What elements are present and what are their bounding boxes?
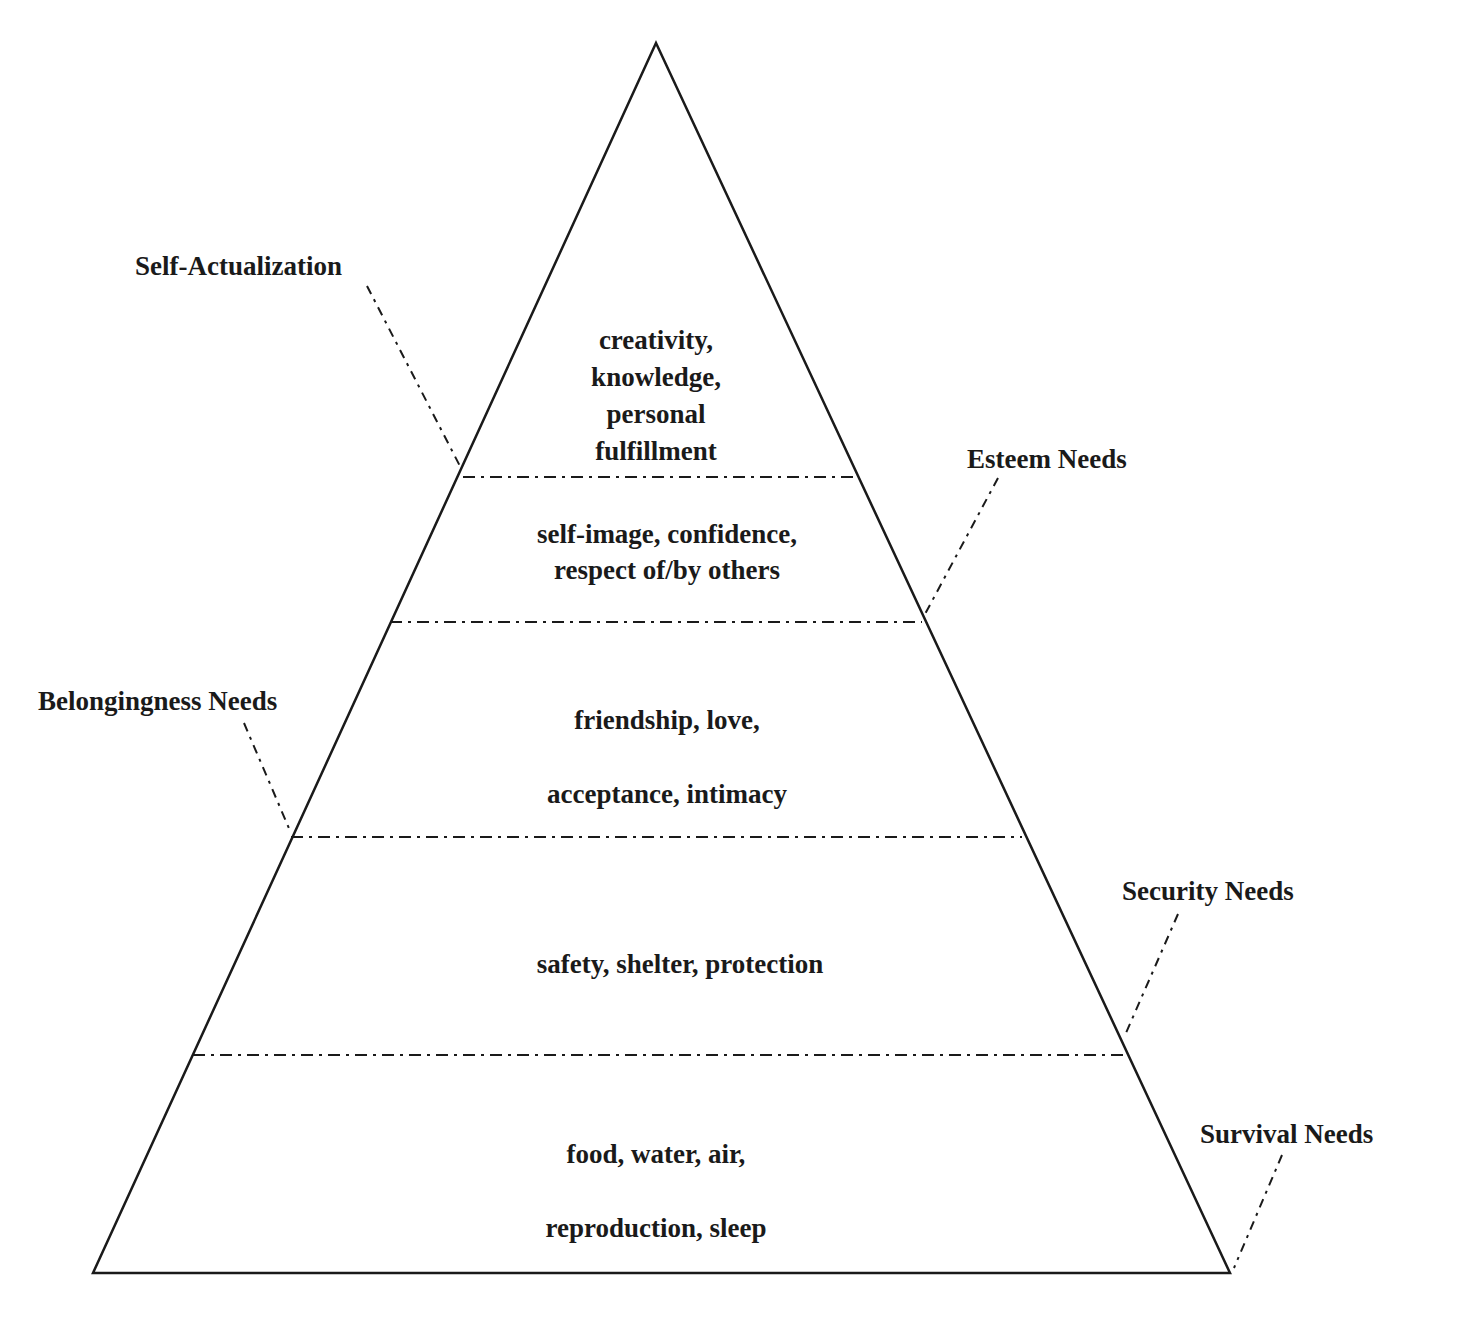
tier-line: self-image, confidence, <box>537 516 797 552</box>
tier-line: personal <box>591 396 721 433</box>
leader-belongingness <box>244 723 291 833</box>
leader-self-actualization <box>367 286 462 470</box>
tier-line: respect of/by others <box>537 552 797 588</box>
tier-line: safety, shelter, protection <box>537 946 823 982</box>
label-security-needs: Security Needs <box>1122 878 1294 905</box>
tier-line: friendship, love, <box>547 683 787 757</box>
tier-security-text: safety, shelter, protection <box>537 946 823 982</box>
tier-line: reproduction, sleep <box>545 1191 766 1265</box>
tier-self-actualization-text: creativity, knowledge, personal fulfillm… <box>591 322 721 470</box>
leader-security <box>1126 914 1178 1033</box>
tier-esteem-text: self-image, confidence, respect of/by ot… <box>537 516 797 588</box>
tier-line: knowledge, <box>591 359 721 396</box>
tier-line: acceptance, intimacy <box>547 757 787 831</box>
label-esteem-needs: Esteem Needs <box>967 446 1127 473</box>
tier-line: food, water, air, <box>545 1117 766 1191</box>
label-self-actualization: Self-Actualization <box>135 253 342 280</box>
leader-esteem <box>924 478 998 616</box>
label-survival-needs: Survival Needs <box>1200 1121 1373 1148</box>
tier-line: fulfillment <box>591 433 721 470</box>
label-belongingness-needs: Belongingness Needs <box>38 688 277 715</box>
tier-survival-text: food, water, air, reproduction, sleep <box>545 1117 766 1265</box>
pyramid-outline <box>93 43 1230 1273</box>
tier-line: creativity, <box>591 322 721 359</box>
leader-survival <box>1234 1155 1282 1268</box>
tier-belongingness-text: friendship, love, acceptance, intimacy <box>547 683 787 831</box>
